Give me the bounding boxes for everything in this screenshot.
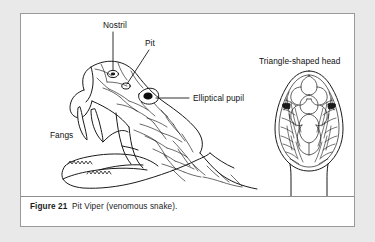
snake-head-side-view xyxy=(62,61,257,189)
label-pit: Pit xyxy=(145,38,155,48)
nostril-opening xyxy=(111,73,115,76)
body-fold-line xyxy=(210,153,234,168)
head-top-right-scales xyxy=(315,92,337,164)
mouth-inner-fold xyxy=(122,146,138,150)
label-elliptical-pupil: Elliptical pupil xyxy=(193,93,244,103)
figure-card: Nostril Pit Elliptical pupil Fangs Trian… xyxy=(20,13,355,227)
upper-jaw-inner-edge xyxy=(86,67,93,102)
leader-pit xyxy=(127,50,149,84)
label-triangle-shaped-head: Triangle-shaped head xyxy=(259,56,340,66)
fang-right xyxy=(91,109,103,142)
pit-viper-illustration xyxy=(21,14,354,196)
elliptical-pupil-shape xyxy=(143,92,152,99)
body-lower-contour xyxy=(200,153,257,189)
figure-illustration-plate: Nostril Pit Elliptical pupil Fangs Trian… xyxy=(21,14,354,196)
head-top-left-scales xyxy=(281,92,303,164)
neck-left-edge xyxy=(290,164,291,196)
figure-caption-text: Pit Viper (venomous snake). xyxy=(72,202,177,211)
mouth-inner-tissue-top xyxy=(103,131,128,143)
head-top-outline xyxy=(275,71,343,171)
caption-separator-rule xyxy=(21,196,354,197)
figure-caption: Figure 21 Pit Viper (venomous snake). xyxy=(30,201,350,212)
lower-jaw-top-edge xyxy=(65,154,158,166)
label-nostril: Nostril xyxy=(103,20,127,30)
snake-head-top-view xyxy=(275,71,343,196)
fang-left xyxy=(78,107,87,140)
label-fangs: Fangs xyxy=(50,130,73,140)
neck-right-edge xyxy=(327,164,328,196)
pit-organ-shape xyxy=(122,83,130,89)
figure-caption-number: Figure 21 xyxy=(30,202,67,211)
lower-jaw-inner-edge xyxy=(63,168,147,179)
eye-left-top-view xyxy=(283,103,290,109)
eye-right-top-view xyxy=(328,103,335,109)
